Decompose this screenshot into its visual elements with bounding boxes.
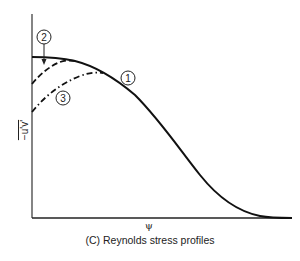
- arrowhead-icon: [42, 59, 47, 65]
- curve-2-dashed: [32, 60, 75, 84]
- svg-text:3: 3: [60, 93, 66, 104]
- marker-2: 2: [37, 30, 51, 44]
- x-axis-label: ψ: [145, 220, 153, 231]
- figure-caption: (C) Reynolds stress profiles: [0, 234, 300, 246]
- curve-1-solid: [32, 57, 292, 218]
- marker-3: 3: [56, 91, 70, 105]
- svg-text:2: 2: [41, 32, 47, 43]
- y-axis-label: −u'v': [12, 118, 36, 142]
- svg-text:1: 1: [125, 73, 131, 84]
- marker-1: 1: [121, 71, 135, 85]
